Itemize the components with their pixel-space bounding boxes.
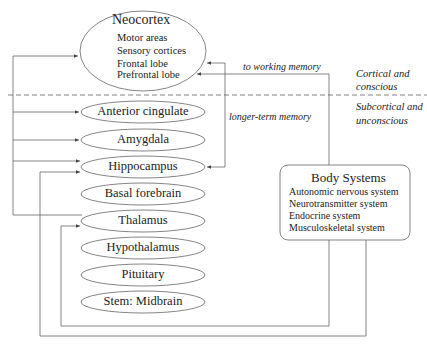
node-hypothalamus: Hypothalamus	[81, 240, 205, 255]
node-thalamus: Thalamus	[81, 213, 205, 228]
body-systems-title: Body Systems	[311, 170, 386, 186]
neocortex-title: Neocortex	[112, 12, 170, 28]
neocortex-item: Sensory cortices	[117, 44, 186, 57]
region-cortical-line1: Cortical and	[356, 67, 409, 81]
region-subcortical-line1: Subcortical and	[356, 100, 423, 114]
body-systems-item: Endocrine system	[289, 210, 360, 223]
node-amygdala: Amygdala	[81, 132, 205, 147]
neocortex-item: Motor areas	[117, 31, 167, 44]
body-systems-item: Musculoskeletal system	[289, 222, 385, 235]
to-working-memory-label: to working memory	[243, 61, 321, 72]
longer-term-memory-label: longer-term memory	[229, 111, 311, 122]
neocortex-item: Prefrontal lobe	[117, 68, 180, 81]
region-subcortical-line2: unconscious	[356, 114, 408, 128]
region-cortical-line2: conscious	[356, 80, 397, 94]
node-stem-midbrain: Stem: Midbrain	[81, 294, 205, 309]
body-systems-item: Autonomic nervous system	[289, 186, 398, 199]
body-systems-item: Neurotransmitter system	[289, 198, 388, 211]
node-hippocampus: Hippocampus	[81, 159, 205, 174]
node-pituitary: Pituitary	[81, 267, 205, 282]
node-anterior-cingulate: Anterior cingulate	[81, 104, 205, 119]
node-basal-forebrain: Basal forebrain	[81, 186, 205, 201]
